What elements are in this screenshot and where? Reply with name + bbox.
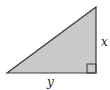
side-label-x: x [101,35,108,49]
right-triangle-diagram: x y [0,0,110,90]
side-label-y: y [46,75,54,89]
triangle-shape [7,7,96,73]
